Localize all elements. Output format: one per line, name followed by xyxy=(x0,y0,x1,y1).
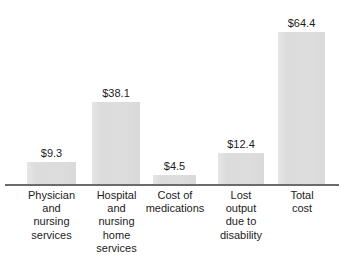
bar xyxy=(218,153,264,185)
bar-group: $12.4 xyxy=(218,153,264,185)
bar-chart: $9.3 $38.1 $4.5 $12.4 $64.4 Physician an… xyxy=(0,0,344,266)
x-axis-line xyxy=(5,184,339,186)
bar xyxy=(278,32,325,185)
bar-group: $38.1 xyxy=(92,102,140,185)
plot-area: $9.3 $38.1 $4.5 $12.4 $64.4 xyxy=(0,0,344,185)
bar-value-label: $12.4 xyxy=(227,138,255,150)
bar-group: $9.3 xyxy=(27,162,76,185)
category-axis-labels: Physician and nursing services Hospital … xyxy=(0,189,344,266)
bar xyxy=(92,102,140,185)
bar-value-label: $38.1 xyxy=(102,87,130,99)
bar-value-label: $4.5 xyxy=(164,160,185,172)
bar-value-label: $9.3 xyxy=(41,147,62,159)
bar-value-label: $64.4 xyxy=(288,17,316,29)
bar xyxy=(27,162,76,185)
bar-group: $64.4 xyxy=(278,32,325,185)
category-label: Total cost xyxy=(263,189,341,215)
